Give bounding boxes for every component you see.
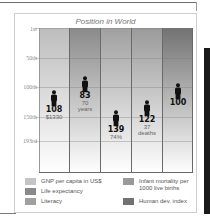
person-icon [143, 100, 151, 116]
gridline [35, 58, 193, 59]
y-tick-label: 150th [17, 114, 37, 120]
legend-label: Human dev. index [139, 198, 187, 205]
rank-value: 122 [132, 116, 162, 124]
y-tick-label: 193rd [17, 138, 37, 144]
person-icon [50, 90, 58, 106]
person-icon [81, 76, 89, 92]
rank-value: 100 [163, 99, 193, 107]
page-edge-bar [204, 48, 210, 214]
y-tick-label: 1st [17, 26, 37, 32]
value-label: years [70, 106, 100, 112]
value-label: 74% [101, 134, 131, 140]
gridline [35, 141, 193, 142]
data-marker-infant-mortality: 122 37 deaths [132, 100, 162, 136]
person-icon [174, 83, 182, 99]
rank-value: 139 [101, 126, 131, 134]
legend-item-infant-mortality: Infant mortality per 1000 live births [123, 178, 195, 192]
legend-item-literacy: Literacy [25, 198, 62, 205]
chart-title: Position in World [15, 17, 196, 26]
data-marker-literacy: 139 74% [101, 110, 131, 140]
legend-label: GNP per capita in US$ [41, 178, 102, 185]
value-label: $1330 [39, 114, 69, 120]
legend-swatch [25, 188, 36, 195]
legend-swatch [123, 198, 134, 205]
legend-label: Infant mortality per 1000 live births [139, 178, 195, 192]
legend-swatch [123, 178, 134, 185]
legend-item-life-expectancy: Life expectancy [25, 188, 83, 195]
rank-value: 83 [70, 92, 100, 100]
legend-label: Life expectancy [41, 188, 83, 195]
gridline [35, 28, 193, 29]
y-tick-label: 50th [17, 55, 37, 61]
plot-area: 108 $1330 83 70 years 139 74% 122 37 dea… [39, 28, 193, 173]
chart-panel: Position in World 1st 50th 100th 150th 1… [14, 13, 197, 213]
value-label: deaths [132, 130, 162, 136]
legend-item-human-dev-index: Human dev. index [123, 198, 187, 205]
legend-swatch [25, 198, 36, 205]
top-rule [0, 2, 196, 3]
y-tick-label: 100th [17, 84, 37, 90]
legend-item-gnp: GNP per capita in US$ [25, 178, 102, 185]
rank-value: 108 [39, 106, 69, 114]
bottom-rule [0, 213, 16, 214]
legend-swatch [25, 178, 36, 185]
data-marker-human-dev-index: 100 [163, 83, 193, 107]
person-icon [112, 110, 120, 126]
data-marker-gnp: 108 $1330 [39, 90, 69, 120]
data-marker-life-expectancy: 83 70 years [70, 76, 100, 112]
legend-label: Literacy [41, 198, 62, 205]
plot-baseline [39, 172, 193, 173]
top-rule-corner [196, 2, 197, 11]
column-literacy [101, 28, 132, 173]
